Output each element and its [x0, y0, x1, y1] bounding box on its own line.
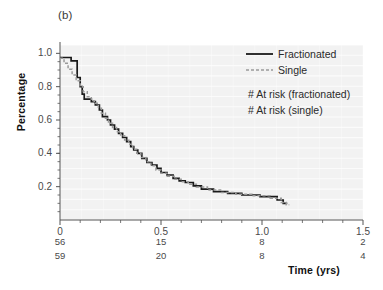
at-risk-value-single: 4	[343, 250, 383, 261]
at-risk-value-single: 20	[141, 250, 181, 261]
at-risk-value-single: 8	[242, 250, 282, 261]
at-risk-value-fractionated: 56	[40, 236, 80, 247]
at-risk-value-single: 59	[40, 250, 80, 261]
legend-note-at-risk-fractionated: # At risk (fractionated)	[248, 88, 350, 100]
y-tick-label: 0.4	[24, 147, 52, 158]
y-tick-label: 1.0	[24, 47, 52, 58]
legend-label-fractionated: Fractionated	[278, 48, 336, 60]
legend-note-at-risk-single: # At risk (single)	[248, 104, 323, 116]
y-tick-label: 0.6	[24, 114, 52, 125]
legend-label-single: Single	[278, 64, 307, 76]
figure-panel-b: (b) Percentage Time (yrs) 0.20.40.60.81.…	[0, 0, 383, 290]
at-risk-value-fractionated: 8	[242, 236, 282, 247]
at-risk-value-fractionated: 15	[141, 236, 181, 247]
y-tick-label: 0.2	[24, 181, 52, 192]
at-risk-value-fractionated: 2	[343, 236, 383, 247]
y-tick-label: 0.8	[24, 81, 52, 92]
